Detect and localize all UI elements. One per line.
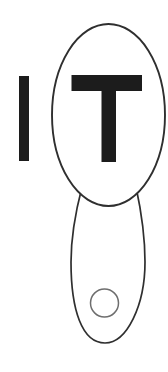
letter-t-stem [102, 75, 117, 162]
handle-inner-circle [91, 289, 119, 317]
paddle-mirror-figure [0, 0, 168, 372]
drawing-canvas [0, 0, 168, 372]
letter-i-stem [19, 76, 29, 161]
letter-i [19, 76, 29, 161]
